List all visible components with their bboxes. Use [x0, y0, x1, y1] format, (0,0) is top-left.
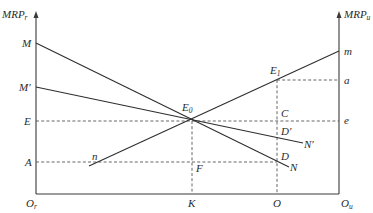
label-Or: Or — [26, 197, 37, 211]
left-axis-title: MRPr — [1, 8, 28, 22]
label-D: D — [280, 150, 289, 162]
label-C: C — [281, 107, 289, 119]
label-M-prime: M′ — [18, 81, 31, 93]
label-F: F — [195, 162, 203, 174]
right-axis-arrow-icon — [337, 11, 342, 18]
mrp-diagram: MRPr MRPu M M′ E A m a e E0 E1 C D′ D N′… — [0, 0, 373, 213]
label-n: n — [92, 150, 98, 162]
label-K: K — [187, 197, 196, 209]
left-axis-arrow-icon — [34, 11, 39, 18]
curve-M-prime-N-prime — [36, 87, 303, 143]
right-axis-title: MRPu — [343, 8, 371, 22]
label-D-prime: D′ — [280, 125, 292, 137]
label-m: m — [344, 45, 352, 57]
curve-MN — [36, 43, 289, 167]
label-E: E — [23, 115, 31, 127]
label-Ou: Ou — [341, 197, 353, 211]
label-e: e — [344, 114, 349, 126]
label-E1: E1 — [269, 64, 280, 78]
label-N-prime: N′ — [303, 138, 314, 150]
label-E0: E0 — [181, 101, 193, 115]
label-a: a — [344, 74, 350, 86]
label-M: M — [21, 37, 32, 49]
curve-nm — [89, 51, 339, 166]
label-O: O — [273, 197, 281, 209]
label-A: A — [24, 156, 32, 168]
label-N: N — [289, 161, 298, 173]
